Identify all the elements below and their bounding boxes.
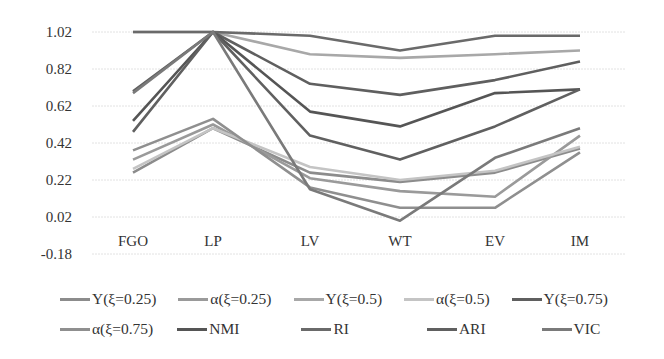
series-line bbox=[133, 32, 580, 221]
legend-swatch bbox=[294, 298, 324, 301]
x-tick-label: WT bbox=[388, 233, 411, 249]
series-lines bbox=[133, 32, 580, 221]
legend-item-alpha-0-25: α(ξ=0.25) bbox=[178, 290, 271, 308]
legend-row-2: α(ξ=0.75) NMI RI ARI VIC bbox=[60, 314, 660, 344]
y-tick-label: 1.02 bbox=[46, 24, 72, 40]
y-tick-label: 0.82 bbox=[46, 61, 72, 77]
legend-label: α(ξ=0.25) bbox=[210, 290, 271, 308]
legend-item-alpha-0-75: α(ξ=0.75) bbox=[60, 320, 153, 338]
legend-swatch bbox=[60, 298, 90, 301]
legend-label: RI bbox=[333, 320, 349, 338]
y-tick-label: 0.42 bbox=[46, 135, 72, 151]
legend-item-vic: VIC bbox=[542, 320, 601, 338]
legend-swatch bbox=[178, 298, 208, 301]
legend-item-upsilon-0-75: Υ(ξ=0.75) bbox=[512, 290, 608, 308]
legend-label: α(ξ=0.75) bbox=[92, 320, 153, 338]
y-tick-label: -0.18 bbox=[41, 246, 72, 262]
legend-item-alpha-0-5: α(ξ=0.5) bbox=[404, 290, 489, 308]
x-tick-label: LV bbox=[301, 233, 320, 249]
y-tick-label: 0.62 bbox=[46, 98, 72, 114]
legend-swatch bbox=[512, 298, 542, 301]
legend-label: Υ(ξ=0.5) bbox=[326, 290, 383, 308]
x-tick-label: FGO bbox=[118, 233, 148, 249]
y-axis-tick-labels: 1.020.820.620.420.220.02-0.18 bbox=[41, 24, 72, 262]
line-chart: 1.020.820.620.420.220.02-0.18 FGOLPLVWTE… bbox=[0, 0, 664, 280]
series-line bbox=[133, 32, 580, 160]
x-tick-label: IM bbox=[571, 233, 589, 249]
legend-swatch bbox=[542, 328, 572, 331]
y-tick-label: 0.22 bbox=[46, 172, 72, 188]
x-tick-label: EV bbox=[485, 233, 505, 249]
legend-label: Υ(ξ=0.25) bbox=[92, 290, 156, 308]
legend: Υ(ξ=0.25) α(ξ=0.25) Υ(ξ=0.5) α(ξ=0.5) Υ(… bbox=[60, 284, 660, 344]
x-tick-label: LP bbox=[204, 233, 222, 249]
legend-swatch bbox=[404, 298, 434, 301]
legend-item-upsilon-0-5: Υ(ξ=0.5) bbox=[294, 290, 383, 308]
y-tick-label: 0.02 bbox=[46, 209, 72, 225]
legend-swatch bbox=[177, 328, 207, 331]
x-axis-tick-labels: FGOLPLVWTEVIM bbox=[118, 233, 589, 249]
legend-item-upsilon-0-25: Υ(ξ=0.25) bbox=[60, 290, 156, 308]
series-line bbox=[133, 119, 580, 208]
legend-label: Υ(ξ=0.75) bbox=[544, 290, 608, 308]
legend-label: VIC bbox=[574, 320, 601, 338]
legend-swatch bbox=[60, 328, 90, 331]
legend-swatch bbox=[301, 328, 331, 331]
legend-label: ARI bbox=[459, 320, 486, 338]
series-line bbox=[133, 128, 580, 180]
legend-item-ari: ARI bbox=[427, 320, 486, 338]
legend-row-1: Υ(ξ=0.25) α(ξ=0.25) Υ(ξ=0.5) α(ξ=0.5) Υ(… bbox=[60, 284, 660, 314]
legend-swatch bbox=[427, 328, 457, 331]
legend-label: α(ξ=0.5) bbox=[436, 290, 489, 308]
legend-label: NMI bbox=[209, 320, 239, 338]
legend-item-nmi: NMI bbox=[177, 320, 239, 338]
legend-item-ri: RI bbox=[301, 320, 349, 338]
